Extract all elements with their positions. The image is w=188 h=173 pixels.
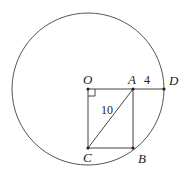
label-b: B <box>138 151 146 166</box>
measure-ac: 10 <box>101 103 113 117</box>
measure-ad: 4 <box>144 73 150 87</box>
label-a: A <box>127 72 136 87</box>
point-o <box>86 87 89 90</box>
point-d <box>162 87 165 90</box>
segment-ac <box>88 89 133 148</box>
label-c: C <box>83 150 92 165</box>
geometry-diagram: O A D B C 10 4 <box>0 0 188 173</box>
label-o: O <box>83 72 93 87</box>
point-a <box>131 87 134 90</box>
point-b <box>131 146 134 149</box>
label-d: D <box>168 73 179 88</box>
